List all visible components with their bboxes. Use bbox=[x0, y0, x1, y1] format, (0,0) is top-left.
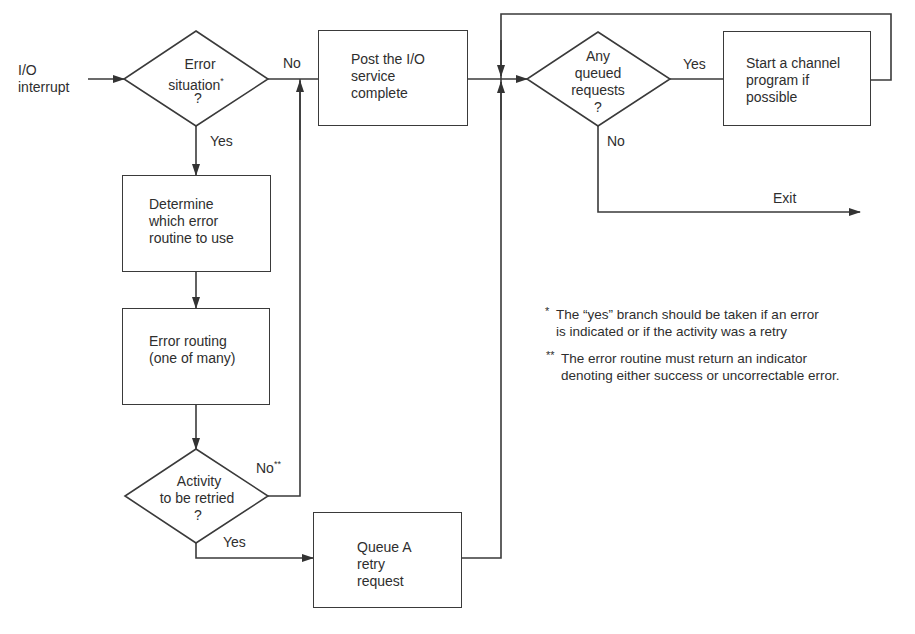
process-text: Start a channel bbox=[746, 55, 840, 72]
process-text: Determine bbox=[149, 196, 214, 213]
footnote-text: denoting either success or uncorrectable… bbox=[561, 367, 839, 384]
footnote-text: is indicated or if the activity was a re… bbox=[556, 323, 819, 340]
decision-text: ? bbox=[194, 90, 202, 107]
label-yes-queued: Yes bbox=[683, 56, 706, 73]
decision-text: ? bbox=[194, 507, 202, 524]
process-start-channel-program: Start a channel program if possible bbox=[723, 31, 871, 126]
footnote-double-star: ** The error routine must return an indi… bbox=[561, 350, 839, 384]
process-text: (one of many) bbox=[149, 350, 235, 367]
label-no-queued: No bbox=[607, 133, 625, 150]
process-text: request bbox=[357, 573, 404, 590]
process-text: possible bbox=[746, 89, 797, 106]
decision-text: Activity bbox=[177, 473, 221, 490]
label-no-retry: No** bbox=[256, 456, 281, 477]
decision-text: ? bbox=[594, 99, 602, 116]
process-text: Queue A bbox=[357, 539, 412, 556]
start-label-interrupt: interrupt bbox=[18, 79, 69, 96]
process-post-io-complete: Post the I/O service complete bbox=[318, 30, 468, 126]
footnote-marker: * bbox=[545, 303, 549, 320]
process-text: Post the I/O bbox=[351, 51, 425, 68]
footnote-single-star: * The “yes” branch should be taken if an… bbox=[556, 306, 819, 340]
start-label-io: I/O bbox=[18, 62, 37, 79]
label-no-error: No bbox=[283, 55, 301, 72]
decision-text: queued bbox=[575, 65, 622, 82]
process-text: complete bbox=[351, 85, 408, 102]
process-determine-error-routine: Determine which error routine to use bbox=[122, 175, 271, 272]
process-text: routine to use bbox=[149, 230, 234, 247]
footnote-text: The “yes” branch should be taken if an e… bbox=[556, 306, 819, 323]
footnote-text: The error routine must return an indicat… bbox=[561, 350, 839, 367]
process-queue-retry-request: Queue A retry request bbox=[313, 512, 462, 608]
process-error-routing: Error routing (one of many) bbox=[122, 308, 270, 405]
decision-text: Error bbox=[184, 56, 215, 73]
label-yes-error: Yes bbox=[210, 133, 233, 150]
process-text: retry bbox=[357, 556, 385, 573]
decision-text: Any bbox=[586, 48, 610, 65]
process-text: program if bbox=[746, 72, 809, 89]
exit-label: Exit bbox=[773, 190, 796, 207]
process-text: Error routing bbox=[149, 333, 227, 350]
label-yes-retry: Yes bbox=[223, 534, 246, 551]
process-text: which error bbox=[149, 213, 218, 230]
footnote-marker: ** bbox=[546, 347, 555, 364]
process-text: service bbox=[351, 68, 395, 85]
decision-text: requests bbox=[571, 82, 625, 99]
decision-text: to be retried bbox=[160, 490, 235, 507]
